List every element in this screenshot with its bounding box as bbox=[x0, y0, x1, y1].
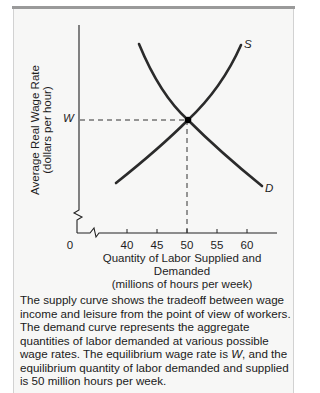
tick-label-0: 0 bbox=[67, 239, 73, 251]
tick-label-45: 45 bbox=[151, 239, 164, 251]
y-axis-label: Average Real Wage Rate (dollars per hour… bbox=[29, 65, 53, 195]
equilibrium-point bbox=[185, 117, 192, 124]
figure-caption: The supply curve shows the tradeoff betw… bbox=[20, 293, 292, 388]
x-axis-title: Quantity of Labor Supplied and Demanded bbox=[77, 252, 287, 278]
y-axis bbox=[74, 25, 82, 233]
x-axis-label: Quantity of Labor Supplied and Demanded … bbox=[77, 252, 287, 291]
x-axis-units: (millions of hours per week) bbox=[77, 278, 287, 291]
d-label: D bbox=[265, 182, 273, 194]
s-label: S bbox=[244, 38, 252, 50]
y-axis-units: (dollars per hour) bbox=[41, 65, 53, 195]
tick-label-60: 60 bbox=[241, 239, 254, 251]
tick-label-50: 50 bbox=[181, 239, 194, 251]
caption-italic-w: W bbox=[231, 347, 242, 360]
tick-label-55: 55 bbox=[211, 239, 224, 251]
y-axis-title: Average Real Wage Rate bbox=[29, 65, 41, 195]
supply-curve bbox=[116, 45, 241, 183]
tick-label-40: 40 bbox=[121, 239, 134, 251]
w-label: W bbox=[63, 112, 74, 124]
demand-curve bbox=[139, 44, 262, 186]
